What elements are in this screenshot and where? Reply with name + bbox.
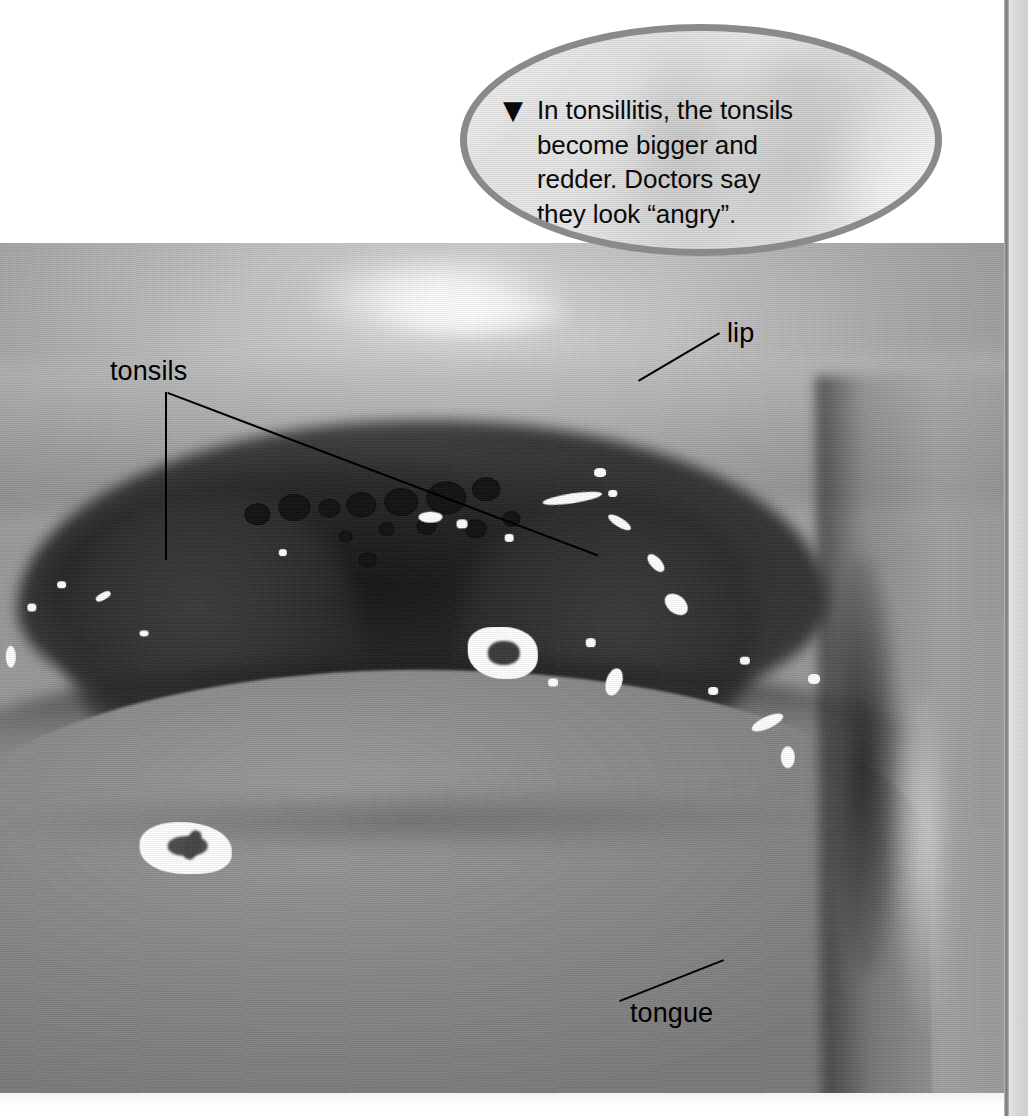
photo-specular-highlight [505,534,514,542]
page-margin-strip [1009,0,1028,1116]
photo-specular-highlight [140,630,149,636]
photo-specular-highlight [708,687,718,695]
photo-saliva-bubble [472,477,500,501]
photo-saliva-bubble [465,519,487,538]
photo-tongue [0,665,933,1099]
callout-line: In tonsillitis, the tonsils [537,93,793,128]
photo-saliva-bubble [339,530,353,542]
callout-line: they look “angry”. [537,197,793,232]
page-canvas: tonsils lip tongue ▼ In tonsillitis, the… [0,0,1028,1116]
callout-line: become bigger and [537,128,793,163]
photo-saliva-bubble [379,522,395,536]
photo-specular-highlight [279,549,287,556]
leader-line-tonsils-vertical [165,392,167,560]
photo-saliva-bubble [244,503,270,525]
photo-saliva-bubble [318,499,340,518]
photo-saliva-bubble [346,492,376,517]
label-tongue: tongue [630,998,713,1029]
photo-specular-highlight [586,638,596,647]
callout-text-block: In tonsillitis, the tonsils become bigge… [537,93,793,231]
photo-specular-highlight [608,490,617,497]
photo-flash-highlight-secondary [379,288,569,340]
photo-specular-highlight [27,603,36,611]
photo-saliva-bubble [359,552,377,567]
label-tonsils: tonsils [110,356,187,387]
photo-tongue-crease [9,786,810,854]
photo-specular-highlight [808,674,820,684]
photo-specular-highlight [457,519,468,528]
photo-bottom-edge [0,1093,1004,1116]
callout-line: redder. Doctors say [537,162,793,197]
photo-saliva-bubble [278,494,310,521]
down-triangle-icon: ▼ [503,95,523,126]
photo-specular-highlight [594,468,606,477]
photo-specular-highlight [6,646,16,668]
photo-saliva-bubble [384,488,418,516]
photo-saliva-glint-hole [488,641,520,665]
label-lip: lip [727,318,754,349]
photo-specular-highlight [781,746,795,768]
photo-specular-highlight [740,657,750,665]
photo-specular-highlight [57,581,66,588]
photo-specular-highlight [548,678,558,686]
callout-oval: ▼ In tonsillitis, the tonsils become big… [460,24,942,256]
callout-content: ▼ In tonsillitis, the tonsils become big… [503,93,923,231]
